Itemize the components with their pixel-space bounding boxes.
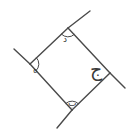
vertex-label-left: ه — [33, 66, 38, 75]
geometry-diagram: د ه ب ج — [0, 0, 130, 139]
extension-right-lower — [110, 73, 125, 88]
extension-bottom-lower — [57, 110, 72, 128]
vertex-label-right: ج — [90, 60, 102, 79]
side-extensions — [14, 11, 125, 128]
vertex-label-bottom: ب — [68, 99, 76, 108]
extension-left-upper-left — [14, 49, 30, 64]
extension-top-upper-right — [68, 11, 90, 28]
figure-svg — [0, 0, 130, 139]
vertex-label-top: د — [63, 35, 67, 44]
